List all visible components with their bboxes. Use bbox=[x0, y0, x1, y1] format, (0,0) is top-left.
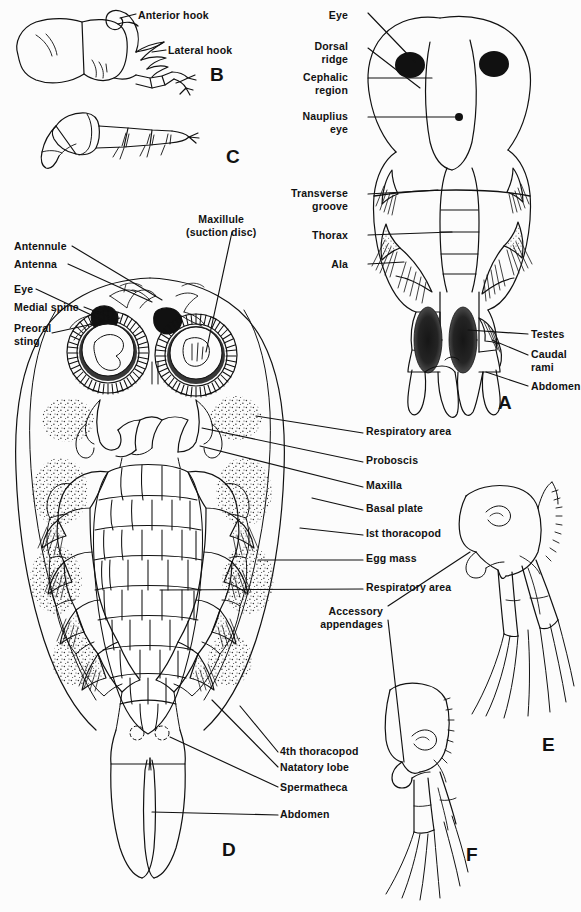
panel-c-drawing bbox=[41, 113, 199, 169]
label-ala: Ala bbox=[268, 258, 348, 271]
suction-disc-left bbox=[67, 311, 149, 394]
label-egg-mass: Egg mass bbox=[366, 552, 417, 565]
panel-e-drawing bbox=[459, 482, 574, 718]
label-eye-d: Eye bbox=[14, 283, 33, 296]
panel-letter-d: D bbox=[222, 839, 236, 861]
label-medial-spine: Medial spine bbox=[14, 301, 79, 314]
label-dorsal-ridge: Dorsal ridge bbox=[278, 40, 348, 65]
label-basal-plate: Basal plate bbox=[366, 502, 423, 515]
panel-letter-b: B bbox=[210, 64, 224, 86]
label-cephalic-region: Cephalic region bbox=[268, 71, 348, 96]
label-respiratory-area-2: Respiratory area bbox=[366, 581, 451, 594]
anatomy-linework bbox=[0, 0, 581, 912]
label-nauplius-eye: Nauplius eye bbox=[268, 110, 348, 135]
label-accessory-appendages: Accessory appendages bbox=[303, 605, 383, 630]
label-eye-a: Eye bbox=[278, 9, 348, 22]
label-abdomen-a: Abdomen bbox=[531, 380, 580, 393]
label-preoral-sting: Preoral sting bbox=[14, 322, 51, 347]
label-spermatheca: Spermatheca bbox=[280, 781, 348, 794]
label-antenna: Antenna bbox=[14, 258, 57, 271]
label-caudal-rami: Caudal rami bbox=[531, 348, 567, 373]
egg-mass bbox=[94, 465, 203, 735]
panel-d-drawing bbox=[16, 278, 285, 878]
label-respiratory-area-1: Respiratory area bbox=[366, 425, 451, 438]
label-fourth-thoracopod: 4th thoracopod bbox=[280, 745, 359, 758]
suction-disc-right bbox=[155, 314, 237, 397]
label-lateral-hook: Lateral hook bbox=[168, 44, 232, 57]
panel-letter-f: F bbox=[466, 844, 478, 866]
figure-plate: Eye Dorsal ridge Cephalic region Naupliu… bbox=[0, 0, 581, 912]
label-testes: Testes bbox=[531, 328, 564, 341]
panel-f-drawing bbox=[385, 683, 468, 900]
label-thorax: Thorax bbox=[268, 229, 348, 242]
label-antennule: Antennule bbox=[14, 240, 67, 253]
label-maxillule: Maxillule (suction disc) bbox=[186, 213, 256, 238]
label-first-thoracopod: Ist thoracopod bbox=[366, 527, 441, 540]
label-proboscis: Proboscis bbox=[366, 454, 418, 467]
label-abdomen-d: Abdomen bbox=[280, 808, 329, 821]
panel-a-drawing bbox=[368, 16, 532, 417]
panel-letter-c: C bbox=[226, 146, 240, 168]
label-anterior-hook: Anterior hook bbox=[138, 9, 209, 22]
panel-letter-e: E bbox=[542, 734, 555, 756]
label-transverse-groove: Transverse groove bbox=[262, 187, 348, 212]
label-maxilla: Maxilla bbox=[366, 479, 402, 492]
panel-letter-a: A bbox=[498, 392, 512, 414]
label-natatory-lobe: Natatory lobe bbox=[280, 761, 349, 774]
